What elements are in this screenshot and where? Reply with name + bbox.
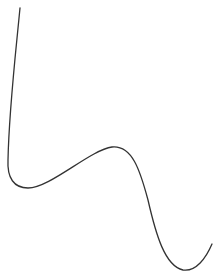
freehand-curve (8, 8, 212, 270)
curve-drawing (0, 0, 219, 275)
drawing-canvas (0, 0, 219, 275)
